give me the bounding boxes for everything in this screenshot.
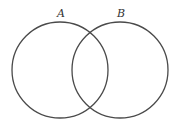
venn-diagram: A B: [0, 0, 178, 127]
set-a-label: A: [56, 7, 65, 20]
set-a-circle: [12, 22, 108, 118]
set-b-label: B: [116, 7, 125, 20]
set-b-circle: [72, 22, 168, 118]
